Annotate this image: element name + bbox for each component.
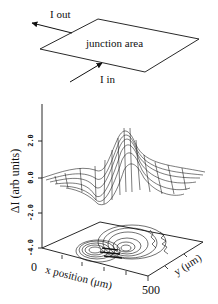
x-origin-label: 0: [31, 261, 37, 273]
current-in-label: I in: [100, 74, 115, 85]
figure: junction area I out I in 2.0 0.0 -2.0 -4…: [0, 0, 218, 304]
z-tick-0: 0.0: [28, 171, 35, 184]
current-out-arrow: [32, 23, 72, 33]
z-axis-label: ΔI (arb units): [9, 126, 21, 236]
current-in-arrow: [70, 63, 102, 82]
current-out-label: I out: [50, 9, 70, 20]
wireframe-surface: [42, 128, 205, 205]
z-tick-neg2: -2.0: [28, 204, 35, 221]
junction-diagram: [32, 19, 199, 82]
z-tick-2: 2.0: [28, 134, 35, 147]
junction-area-label: junction area: [86, 38, 143, 49]
z-axis: [38, 104, 42, 248]
z-tick-neg4: -4.0: [28, 239, 35, 256]
x-max-label: 500: [142, 284, 160, 296]
